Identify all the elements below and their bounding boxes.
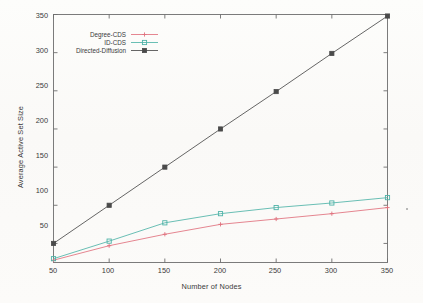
xtick-label-250: 250	[262, 266, 288, 275]
xtick-label-350: 350	[374, 266, 400, 275]
series-marker-directed-diffusion-200	[218, 127, 222, 131]
series-marker-directed-diffusion-250	[274, 89, 278, 93]
xtick-label-200: 200	[207, 266, 233, 275]
legend-label-directed-diffusion: Directed-Diffusion	[40, 47, 126, 54]
series-marker-directed-diffusion-300	[330, 51, 334, 55]
y-axis-title: Average Active Set Size	[16, 106, 25, 188]
xtick-label-300: 300	[318, 266, 344, 275]
scan-artifact-dot	[406, 208, 408, 210]
legend-line-samples	[131, 32, 158, 52]
ytick-label-350: 350	[22, 11, 48, 20]
legend-label-degree-cds: Degree-CDS	[40, 31, 126, 38]
xtick-label-150: 150	[151, 266, 177, 275]
series-marker-directed-diffusion-350	[385, 14, 389, 18]
series-marker-directed-diffusion-150	[163, 165, 167, 169]
legend-label-id-cds: ID-CDS	[40, 39, 126, 46]
xtick-label-50: 50	[40, 266, 66, 275]
chart-figure: 350 300 250 200 150 100 50 50 100 150 20…	[0, 0, 423, 303]
series-line-id-cds	[54, 198, 388, 259]
xtick-label-100: 100	[95, 266, 121, 275]
x-axis-title: Number of Nodes	[0, 282, 423, 291]
series-marker-directed-diffusion-50	[51, 241, 55, 245]
legend-sample-marker-directed-diffusion	[142, 48, 146, 52]
y-axis-title-wrap: Average Active Set Size	[9, 67, 27, 227]
series-marker-directed-diffusion-100	[107, 203, 111, 207]
